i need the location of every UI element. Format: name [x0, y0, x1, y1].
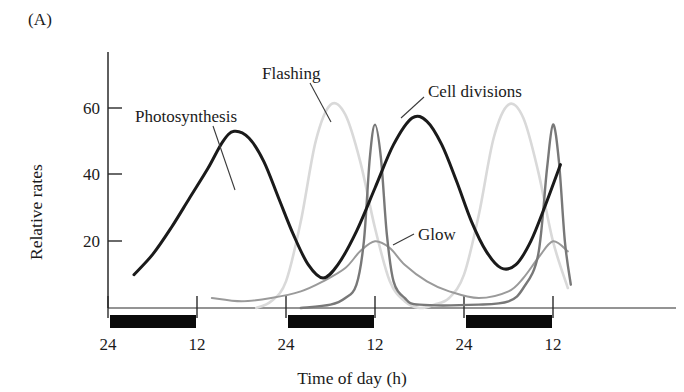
night-bar-2	[288, 315, 374, 328]
curve-label-photosynthesis: Photosynthesis	[135, 107, 237, 126]
x-tick-label-3: 12	[367, 335, 384, 354]
leader-line-cell-divisions	[401, 97, 424, 118]
figure-panel: (A) 60 40 20 Relative rates 24 12 24 12 …	[0, 0, 684, 392]
curve-flashing	[256, 103, 568, 308]
x-tick-label-1: 12	[189, 335, 206, 354]
x-axis-title: Time of day (h)	[297, 368, 407, 388]
leader-line-glow	[393, 234, 414, 245]
x-tick-label-0: 24	[100, 335, 118, 354]
x-tick-label-4: 24	[456, 335, 474, 354]
leader-line-photosynthesis	[213, 126, 235, 190]
x-tick-label-5: 12	[545, 335, 562, 354]
curve-photosynthesis	[134, 116, 560, 278]
curve-label-glow: Glow	[418, 225, 457, 244]
leader-line-flashing	[310, 83, 331, 122]
curve-glow	[212, 241, 568, 301]
circadian-rhythm-chart: 60 40 20 Relative rates 24 12 24 12 24 1…	[0, 0, 684, 392]
y-tick-label-60: 60	[83, 99, 100, 118]
curve-cell-divisions	[301, 125, 571, 308]
curve-label-cell-divisions: Cell divisions	[428, 82, 522, 101]
curve-label-flashing: Flashing	[262, 64, 321, 83]
y-tick-label-20: 20	[83, 232, 100, 251]
night-bar-3	[466, 315, 552, 328]
y-tick-label-40: 40	[83, 165, 100, 184]
curves-layer	[134, 103, 571, 308]
y-axis-title: Relative rates	[26, 164, 46, 260]
x-tick-label-2: 24	[278, 335, 296, 354]
night-bar-1	[110, 315, 196, 328]
